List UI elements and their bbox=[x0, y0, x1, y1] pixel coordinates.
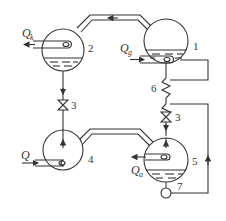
label-3-left: 3 bbox=[71, 99, 77, 111]
vessel-4-evaporator bbox=[22, 128, 83, 170]
vessel-1-generator bbox=[130, 19, 188, 63]
valve-3-right bbox=[161, 112, 171, 136]
qa-subscript: a bbox=[139, 170, 143, 179]
label-1: 1 bbox=[193, 40, 199, 52]
qg-subscript: g bbox=[128, 48, 132, 57]
refrigeration-diagram: Q k 2 Q g 1 6 3 3 bbox=[0, 0, 226, 221]
label-6: 6 bbox=[151, 82, 157, 94]
heat-exchanger-6 bbox=[162, 63, 170, 118]
label-3-right: 3 bbox=[175, 111, 181, 123]
q-label: Q bbox=[21, 148, 30, 162]
valve-3-left bbox=[58, 71, 68, 128]
label-2: 2 bbox=[88, 42, 94, 54]
qk-subscript: k bbox=[30, 33, 34, 42]
label-4: 4 bbox=[88, 153, 94, 165]
top-vapor-pipe bbox=[77, 15, 153, 32]
label-5: 5 bbox=[192, 155, 198, 167]
pump-7 bbox=[161, 188, 171, 198]
label-7: 7 bbox=[177, 180, 183, 192]
bottom-vapor-pipe bbox=[77, 129, 153, 146]
